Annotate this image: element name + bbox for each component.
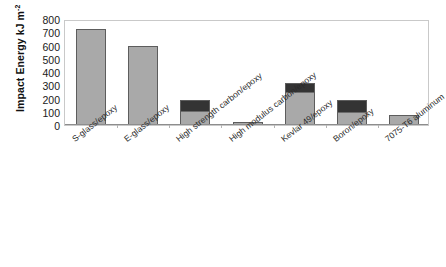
y-axis-tick-label: 400 [28, 68, 60, 79]
x-axis-category-labels: S-glass/epoxyE-glass/epoxyHigh strength … [0, 130, 444, 267]
x-axis-tick-mark [326, 125, 327, 128]
y-axis-title: Impact Energy kJ m-2 [14, 0, 27, 120]
y-axis-title-text: Impact Energy kJ m [14, 11, 26, 112]
x-axis-tick-mark [274, 125, 275, 128]
y-axis-tick-label: 500 [28, 54, 60, 65]
x-axis-tick-mark [169, 125, 170, 128]
x-axis-tick-mark [117, 125, 118, 128]
y-axis-tick-label: 100 [28, 107, 60, 118]
y-axis-tick-label: 800 [28, 15, 60, 26]
y-axis-tick-label: 600 [28, 41, 60, 52]
y-axis-tick-label: 300 [28, 81, 60, 92]
bar-segment-lower [77, 30, 105, 124]
y-axis-tick-labels: 8007006005004003002001000 [28, 14, 60, 132]
x-axis-tick-mark [378, 125, 379, 128]
y-axis-tick-label: 700 [28, 28, 60, 39]
y-axis-title-superscript: -2 [14, 5, 21, 11]
y-axis-title-container: Impact Energy kJ m-2 [0, 0, 30, 140]
y-axis-tick-label: 200 [28, 94, 60, 105]
x-axis-tick-mark [221, 125, 222, 128]
